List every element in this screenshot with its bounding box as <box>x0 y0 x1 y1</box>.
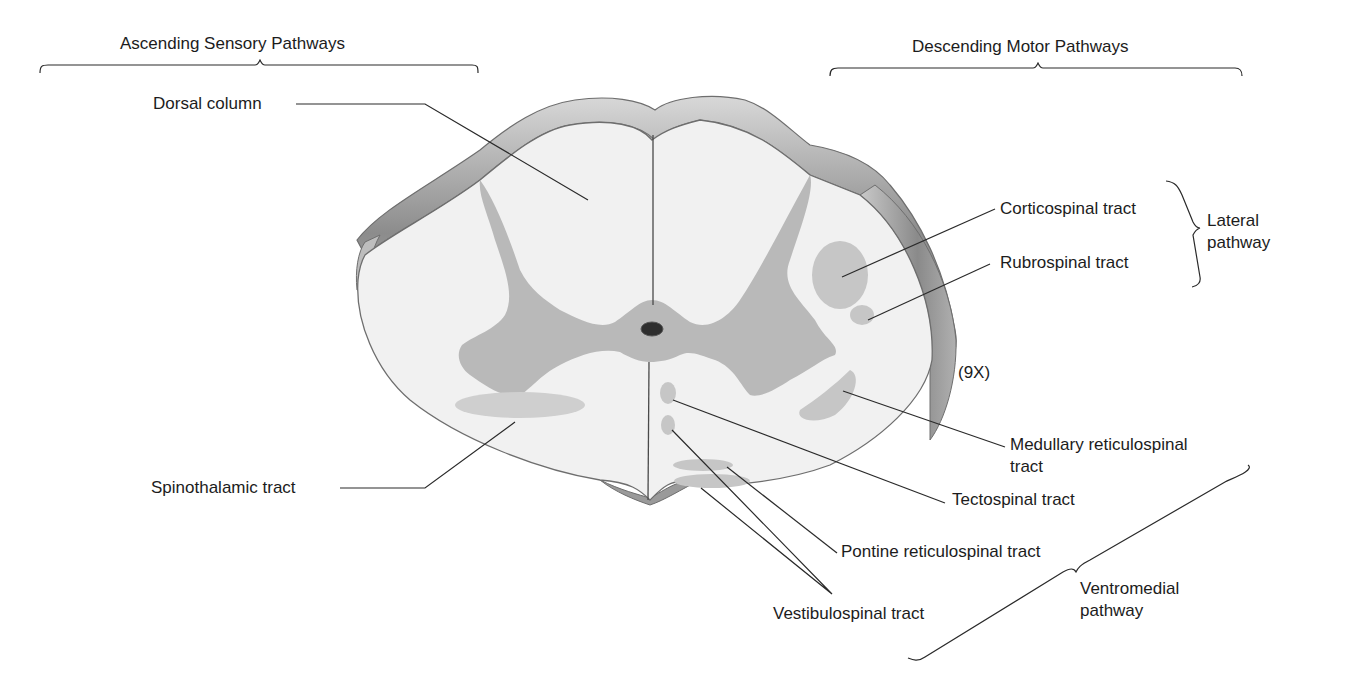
corticospinal-region <box>812 241 868 309</box>
vestibulospinal-region-medial <box>661 415 675 435</box>
label-ventromedial-pathway: Ventromedial pathway <box>1080 578 1179 622</box>
label-vestibulospinal-tract: Vestibulospinal tract <box>773 604 924 624</box>
descending-brace <box>830 63 1242 76</box>
lateral-pathway-line2: pathway <box>1207 232 1270 254</box>
pontine-reticulospinal-leader <box>727 467 837 553</box>
medullary-line1: Medullary reticulospinal <box>1010 434 1188 456</box>
ventromedial-line1: Ventromedial <box>1080 578 1179 600</box>
label-medullary-reticulospinal-tract: Medullary reticulospinal tract <box>1010 434 1188 478</box>
pontine-reticulospinal-region <box>673 459 733 471</box>
label-pontine-reticulospinal-tract: Pontine reticulospinal tract <box>841 542 1040 562</box>
spinothalamic-region <box>455 392 585 418</box>
label-rubrospinal-tract: Rubrospinal tract <box>1000 253 1129 273</box>
ascending-brace <box>40 60 478 73</box>
medullary-line2: tract <box>1010 456 1188 478</box>
descending-pathways-title: Descending Motor Pathways <box>912 37 1128 57</box>
label-spinothalamic-tract: Spinothalamic tract <box>151 478 296 498</box>
lateral-pathway-line1: Lateral <box>1207 210 1270 232</box>
rubrospinal-region <box>850 305 874 325</box>
label-magnification: (9X) <box>958 363 990 383</box>
ventromedial-line2: pathway <box>1080 600 1179 622</box>
label-tectospinal-tract: Tectospinal tract <box>952 490 1075 510</box>
label-lateral-pathway: Lateral pathway <box>1207 210 1270 254</box>
lateral-pathway-brace <box>1166 181 1200 287</box>
label-corticospinal-tract: Corticospinal tract <box>1000 199 1136 219</box>
label-dorsal-column: Dorsal column <box>153 94 262 114</box>
central-canal <box>641 322 663 336</box>
ascending-pathways-title: Ascending Sensory Pathways <box>120 34 345 54</box>
